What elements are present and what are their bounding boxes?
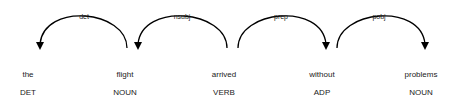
arc-nsubj: nsubj [134, 13, 227, 50]
token-flight: flight NOUN [113, 70, 137, 97]
arrowhead-icon [421, 42, 429, 50]
arc-label: det [79, 13, 89, 20]
token-without: without ADP [308, 70, 335, 97]
token-tag: NOUN [113, 88, 137, 97]
token-problems: problems NOUN [405, 70, 438, 97]
arrowhead-icon [134, 42, 142, 50]
token-text: problems [405, 70, 438, 79]
arc-label: prep [274, 13, 288, 21]
arrowhead-icon [36, 42, 44, 50]
arrowhead-icon [322, 42, 330, 50]
arc-label: nsubj [174, 13, 191, 21]
token-tag: ADP [314, 88, 330, 97]
token-tag: DET [20, 88, 36, 97]
token-text: flight [117, 70, 135, 79]
token-tag: NOUN [409, 88, 433, 97]
token-text: arrived [212, 70, 236, 79]
arc-det: det [36, 13, 127, 50]
token-text: the [22, 70, 34, 79]
token-tag: VERB [213, 88, 235, 97]
arc-prep: prep [238, 13, 330, 50]
dependency-parse-diagram: det nsubj prep pobj the DET flight NOUN … [0, 0, 461, 104]
arc-pobj: pobj [337, 13, 429, 50]
token-arrived: arrived VERB [212, 70, 236, 97]
token-text: without [308, 70, 335, 79]
arc-label: pobj [372, 13, 386, 21]
token-the: the DET [20, 70, 36, 97]
